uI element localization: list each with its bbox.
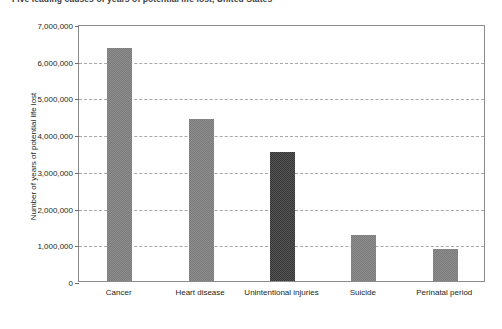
y-axis-tick [75,26,79,27]
bar-texture [107,48,132,281]
x-axis-tick-label: Cancer [78,288,159,298]
gridline [79,63,484,64]
y-axis-tick [75,99,79,100]
chart-title: Five leading causes of years of potentia… [12,0,492,4]
y-axis-tick-label: 7,000,000 [37,22,73,31]
bar[interactable] [107,48,132,281]
y-axis-tick-label: 2,000,000 [37,205,73,214]
y-axis-tick-label: 1,000,000 [37,242,73,251]
x-axis-tick-label: Heart disease [159,288,240,298]
y-axis-tick-label: 4,000,000 [37,132,73,141]
x-axis-tick-label: Unintentional injuries [241,288,322,298]
y-axis-tick [75,283,79,284]
y-axis-tick [75,246,79,247]
bar-texture [270,152,295,281]
bar[interactable] [351,235,376,281]
bar[interactable] [433,249,458,281]
y-axis-tick [75,63,79,64]
bar[interactable] [270,152,295,281]
x-axis-tick-label: Perinatal period [404,288,485,298]
y-axis-title: Number of years of potential life lost [29,41,38,273]
y-axis-tick-label: 0 [69,279,73,288]
y-axis-tick-label: 5,000,000 [37,95,73,104]
bar-texture [351,235,376,281]
y-axis-tick [75,136,79,137]
x-axis-tick-label: Suicide [322,288,403,298]
y-axis-tick-label: 6,000,000 [37,58,73,67]
bar[interactable] [189,119,214,281]
gridline [79,136,484,137]
gridline [79,99,484,100]
y-axis-tick [75,210,79,211]
y-axis-tick [75,173,79,174]
chart-figure: Five leading causes of years of potentia… [0,0,502,329]
y-axis-tick-label: 3,000,000 [37,168,73,177]
plot-area: 01,000,0002,000,0003,000,0004,000,0005,0… [78,25,485,282]
bar-texture [189,119,214,281]
bar-texture [433,249,458,281]
